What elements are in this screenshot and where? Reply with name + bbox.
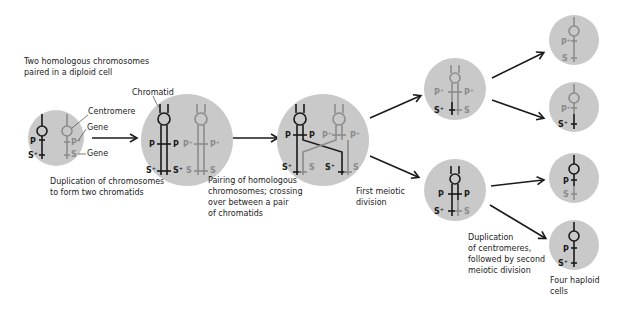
arrow-4a bbox=[492, 53, 543, 78]
caption-stage1-line2: to form two chromatids bbox=[50, 188, 144, 197]
gene-label: P⁺ bbox=[322, 131, 332, 140]
caption-stage2-line3: over between a pair bbox=[208, 198, 289, 207]
arrow-3-top bbox=[370, 96, 420, 118]
gene-label: S⁺ bbox=[558, 259, 568, 268]
gene-label: P bbox=[438, 190, 444, 199]
annotation-centromere: Centromere bbox=[88, 107, 136, 116]
gene-label: S⁺ bbox=[28, 151, 38, 160]
gene-label: P bbox=[173, 140, 179, 149]
arrow-4b bbox=[492, 100, 543, 118]
gene-label: P bbox=[464, 190, 470, 199]
caption-stage4-line1: Duplication bbox=[468, 233, 513, 242]
cell-haploid-1: P⁺ S bbox=[549, 15, 599, 65]
cell-division1-top: P⁺ P⁺ S⁺ S bbox=[424, 58, 486, 120]
caption-stage0-line2: paired in a diploid cell bbox=[24, 68, 112, 77]
cell-haploid-4: P S⁺ bbox=[549, 220, 599, 270]
gene-label: P bbox=[30, 137, 36, 146]
caption-stage4-line3: followed by second bbox=[468, 255, 545, 264]
gene-label: P⁺ bbox=[464, 88, 474, 97]
gene-label: P bbox=[149, 140, 155, 149]
caption-stage1-line1: Duplication of chromosomes bbox=[50, 177, 164, 186]
gene-label: S bbox=[210, 166, 216, 175]
gene-label: S⁺ bbox=[434, 207, 444, 216]
arrow-3-bottom bbox=[370, 156, 418, 177]
caption-stage5-line2: cells bbox=[550, 287, 568, 296]
annotation-gene-1: Gene bbox=[87, 123, 108, 132]
annotation-gene-2: Gene bbox=[87, 149, 108, 158]
gene-label: S⁺ bbox=[146, 166, 156, 175]
gene-label: P⁺ bbox=[71, 138, 81, 147]
gene-label: P⁺ bbox=[183, 140, 193, 149]
cell-crossover: P P S⁺ S⁺ P⁺ P⁺ S S bbox=[277, 94, 369, 186]
cell-diploid: P S⁺ P⁺ S bbox=[28, 110, 84, 166]
gene-label: S⁺ bbox=[173, 166, 183, 175]
caption-stage0-line1: Two homologous chromosomes bbox=[23, 57, 149, 66]
cell-division1-bottom: P P S⁺ S bbox=[424, 159, 486, 221]
gene-label: S bbox=[309, 163, 315, 172]
annotation-chromatid: Chromatid bbox=[132, 88, 174, 97]
gene-label: S bbox=[464, 106, 470, 115]
caption-stage5-line1: Four haploid bbox=[550, 276, 600, 285]
gene-label: S bbox=[71, 150, 77, 159]
caption-stage3-line2: division bbox=[356, 198, 387, 207]
gene-label: P bbox=[285, 131, 291, 140]
gene-label: S⁺ bbox=[325, 163, 335, 172]
gene-label: P⁺ bbox=[561, 105, 571, 114]
gene-label: P bbox=[563, 177, 569, 186]
gene-label: P⁺ bbox=[210, 140, 220, 149]
cell-haploid-2: P⁺ S⁺ bbox=[549, 82, 599, 132]
gene-label: P⁺ bbox=[561, 38, 571, 47]
cell-duplicated: P P S⁺ S⁺ P⁺ P⁺ S S bbox=[141, 94, 233, 186]
gene-label: S bbox=[353, 163, 359, 172]
meiosis-diagram: Two homologous chromosomes paired in a d… bbox=[0, 0, 625, 309]
gene-label: S bbox=[562, 54, 568, 63]
gene-label: S⁺ bbox=[434, 106, 444, 115]
caption-stage3-line1: First meiotic bbox=[356, 187, 405, 196]
caption-stage2-line1: Pairing of homologous bbox=[208, 176, 297, 185]
gene-label: P⁺ bbox=[434, 88, 444, 97]
gene-label: S⁺ bbox=[558, 120, 568, 129]
cell-haploid-3: P S bbox=[549, 153, 599, 203]
caption-stage2-line2: chromosomes; crossing bbox=[208, 187, 302, 196]
gene-label: P bbox=[309, 131, 315, 140]
gene-label: P bbox=[563, 245, 569, 254]
caption-stage4-line4: meiotic division bbox=[468, 266, 531, 275]
caption-stage2-line4: of chromatids bbox=[208, 209, 263, 218]
gene-label: S bbox=[464, 207, 470, 216]
gene-label: S⁺ bbox=[282, 163, 292, 172]
gene-label: S bbox=[563, 190, 569, 199]
arrow-4c bbox=[491, 180, 543, 186]
gene-label: P⁺ bbox=[350, 131, 360, 140]
gene-label: S bbox=[186, 166, 192, 175]
caption-stage4-line2: of centromeres, bbox=[468, 244, 531, 253]
